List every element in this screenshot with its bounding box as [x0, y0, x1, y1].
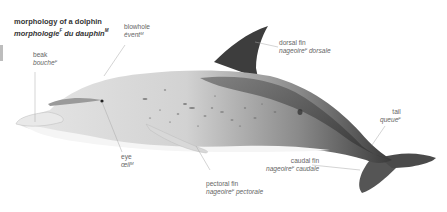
- label-beak: beak boucheF: [33, 51, 57, 68]
- label-pectoral-fin: pectoral fin nageoireF pectorale: [206, 180, 263, 197]
- label-caudal-fin: caudal fin nageoireF caudale: [266, 157, 319, 174]
- label-eye: eye œilM: [121, 153, 134, 170]
- label-blowhole: blowhole éventM: [124, 23, 150, 40]
- title-en: morphology of a dolphin: [14, 17, 108, 26]
- title-fr: morphologieF du dauphinM: [14, 26, 108, 38]
- label-tail: tail queueF: [380, 108, 401, 125]
- label-dorsal-fin: dorsal fin nageoireF dorsale: [279, 39, 331, 56]
- diagram-title: morphology of a dolphin morphologieF du …: [14, 17, 108, 38]
- dorsal-fin-shape: [214, 26, 268, 78]
- dolphin-morphology-diagram: morphology of a dolphin morphologieF du …: [0, 0, 447, 212]
